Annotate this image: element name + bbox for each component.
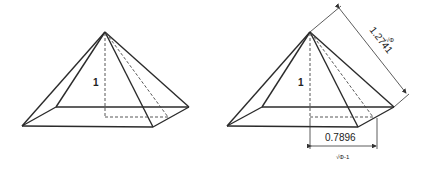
right-edge-front-right [310, 32, 358, 127]
left-pyramid: 1 [22, 32, 189, 127]
left-apothem-line [106, 33, 168, 117]
half-base-value: 0.7896 [325, 132, 356, 143]
half-base-dimension: 0.7896 √Φ-1 [310, 118, 377, 160]
right-base-left [227, 107, 262, 126]
slant-extension-top [310, 6, 341, 32]
left-height-label: 1 [93, 77, 99, 88]
right-height-label: 1 [298, 77, 304, 88]
right-pyramid: 1 1.2741 √Φ 0.7896 √Φ-1 [227, 6, 409, 160]
slant-dimension: 1.2741 √Φ [310, 6, 409, 107]
left-edge-front-right [105, 32, 153, 127]
half-base-symbol: √Φ-1 [336, 154, 350, 160]
slant-dimension-line [339, 8, 406, 93]
left-edge-back-left [56, 32, 105, 107]
slant-extension-bottom [394, 94, 409, 107]
right-apothem-line [311, 33, 373, 117]
slant-symbol: √Φ [386, 37, 394, 43]
left-base-left [22, 107, 56, 126]
left-edge-back-right [105, 32, 189, 107]
right-edge-back-left [262, 32, 310, 107]
pyramid-diagram: 1 1 1.2741 √Φ 0.7896 √Φ-1 [0, 0, 431, 172]
